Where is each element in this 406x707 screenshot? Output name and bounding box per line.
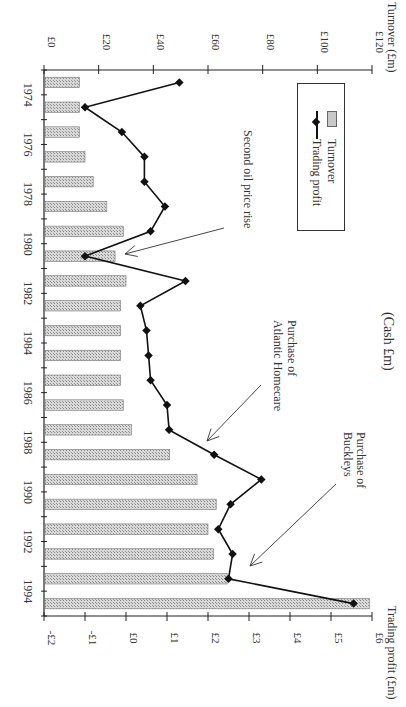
trading-profit-marker	[175, 78, 183, 86]
year-label: 1986	[21, 381, 35, 405]
turnover-bar	[45, 524, 208, 534]
turnover-bar	[45, 598, 369, 608]
year-label: 1990	[21, 480, 35, 504]
arrow-buckleys	[250, 484, 336, 566]
trading-profit-marker	[146, 227, 154, 235]
turnover-bar	[45, 425, 131, 435]
profit-tick-label: £5	[333, 633, 345, 645]
turnover-bar	[45, 549, 213, 559]
annotation-oil-price: Second oil price rise	[240, 130, 255, 228]
turnover-tick-label: £20	[101, 34, 113, 51]
annotation-atlantic-line2: Atlantic Homecare	[270, 320, 285, 411]
profit-tick-label: £2	[210, 633, 222, 644]
turnover-bar	[45, 201, 107, 211]
year-label: 1984	[21, 331, 35, 355]
trading-profit-marker	[210, 450, 218, 458]
year-label: 1994	[21, 579, 35, 603]
year-label: 1992	[21, 530, 35, 554]
year-label: 1982	[21, 281, 35, 305]
turnover-bar	[45, 325, 121, 335]
turnover-bar	[45, 375, 121, 385]
trading-profit-marker	[163, 401, 171, 409]
turnover-bar	[45, 176, 93, 186]
legend-turnover-swatch	[327, 111, 337, 127]
turnover-bar	[45, 102, 80, 112]
turnover-bar	[45, 449, 170, 459]
turnover-tick-label: £80	[265, 34, 277, 51]
year-label: 1978	[21, 182, 35, 206]
turnover-bar	[45, 251, 115, 261]
turnover-tick-label: £60	[210, 34, 222, 51]
turnover-bar	[45, 152, 85, 162]
annotation-buckleys-line1: Purchase of	[353, 432, 368, 488]
center-label: (Cash £m)	[380, 312, 396, 371]
profit-tick-label: -£1	[87, 631, 99, 646]
legend-profit-label: Trading profit	[309, 139, 324, 206]
turnover-bar	[45, 574, 227, 584]
trading-profit-marker	[165, 426, 173, 434]
trading-profit-marker	[144, 351, 152, 359]
year-label: 1980	[21, 232, 35, 256]
profit-axis-title: Trading profit (£m)	[384, 606, 399, 700]
year-label: 1974	[21, 83, 35, 107]
turnover-tick-label: £100	[319, 31, 331, 54]
turnover-tick-label: £40	[155, 34, 167, 51]
turnover-bar	[45, 77, 80, 87]
annotation-buckleys-line2: Buckleys	[340, 432, 355, 477]
turnover-bar	[45, 276, 126, 286]
profit-tick-label: £4	[292, 633, 304, 645]
arrow-atlantic-homecare	[207, 385, 261, 441]
trading-profit-marker	[81, 103, 89, 111]
turnover-bar	[45, 499, 216, 509]
turnover-bar	[45, 127, 80, 137]
trading-profit-marker	[142, 326, 150, 334]
turnover-bar	[45, 350, 121, 360]
turnover-bar	[45, 226, 123, 236]
legend-turnover-label: Turnover	[324, 139, 339, 183]
trading-profit-marker	[181, 277, 189, 285]
arrow-oil-price	[125, 228, 224, 254]
turnover-bar	[45, 301, 121, 311]
turnover-tick-label: £0	[46, 37, 58, 49]
year-label: 1988	[21, 430, 35, 454]
turnover-bar	[45, 474, 197, 484]
profit-tick-label: £1	[169, 633, 181, 644]
trading-profit-marker	[228, 550, 236, 558]
turnover-bar	[45, 400, 123, 410]
trading-profit-marker	[136, 302, 144, 310]
annotations	[125, 228, 336, 566]
profit-tick-label: £3	[251, 633, 263, 645]
chart: £0£20£40£60£80£100£120-£2-£1£0£1£2£3£4£5…	[0, 0, 406, 707]
annotation-atlantic-line1: Purchase of	[284, 320, 299, 376]
turnover-axis-title: Turnover (£m)	[384, 2, 399, 73]
profit-tick-label: £0	[128, 633, 140, 645]
year-label: 1976	[21, 132, 35, 156]
trading-profit-marker	[146, 376, 154, 384]
profit-tick-label: -£2	[46, 631, 58, 646]
trading-profit-marker	[214, 525, 222, 533]
